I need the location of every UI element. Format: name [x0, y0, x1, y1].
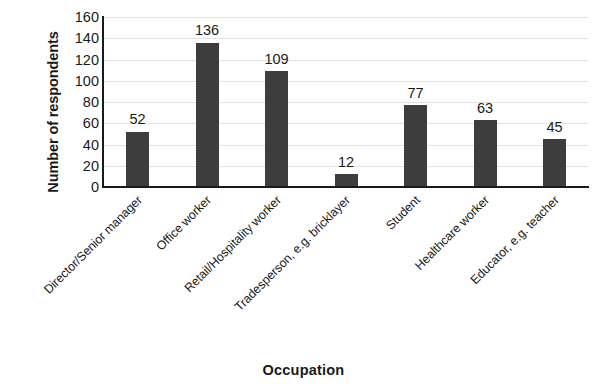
bar-slot: 52 [126, 17, 149, 187]
y-axis-tick-label: 60 [35, 116, 99, 131]
y-axis-tick-label: 40 [35, 137, 99, 152]
bar[interactable] [265, 71, 288, 187]
x-axis-category-label: Student [383, 193, 423, 233]
bar-value-label: 12 [338, 155, 354, 170]
bar-value-label: 63 [477, 101, 493, 116]
y-axis-tick-label: 80 [35, 95, 99, 110]
bar-slot: 45 [543, 17, 566, 187]
x-axis-category-label: Office worker [153, 193, 213, 253]
x-axis-title: Occupation [0, 362, 607, 378]
bar-slot: 63 [474, 17, 497, 187]
y-axis-tick-label: 160 [35, 10, 99, 25]
y-axis-tick-label: 120 [35, 52, 99, 67]
y-axis-tick-label: 140 [35, 31, 99, 46]
y-axis-line [102, 16, 104, 188]
x-axis-line [103, 186, 589, 188]
bar[interactable] [126, 132, 149, 187]
bar-value-label: 109 [264, 52, 288, 67]
bar-slot: 77 [404, 17, 427, 187]
y-axis-tick-labels: 160140120100806040200 [33, 0, 99, 387]
y-axis-tick-label: 0 [35, 180, 99, 195]
bar[interactable] [474, 120, 497, 187]
plot-area: 5213610912776345 [103, 17, 588, 187]
x-axis-category-label: Healthcare worker [412, 193, 492, 273]
x-axis-category-label: Tradesperson, e.g. bricklayer [232, 193, 353, 314]
bar-value-label: 136 [195, 23, 219, 38]
y-axis-tick-label: 100 [35, 74, 99, 89]
bar[interactable] [196, 43, 219, 188]
bar-value-label: 77 [407, 86, 423, 101]
y-axis-tick-label: 20 [35, 159, 99, 174]
bar-value-label: 45 [546, 120, 562, 135]
bar-value-label: 52 [129, 112, 145, 127]
bar-chart: Number of respondents 160140120100806040… [0, 0, 607, 387]
bar-slot: 136 [196, 17, 219, 187]
bar[interactable] [543, 139, 566, 187]
bar[interactable] [404, 105, 427, 187]
bar-slot: 109 [265, 17, 288, 187]
bar-slot: 12 [335, 17, 358, 187]
